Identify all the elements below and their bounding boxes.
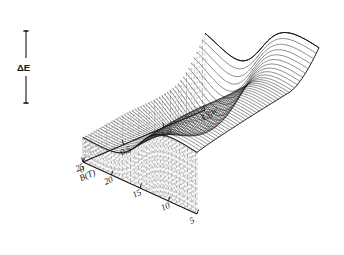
- figure-3d-surface-plot: ΔE 510152025 00.51.01.5 B(T) 1.5 W.: [0, 0, 344, 255]
- left-axis-tick-5: 5: [188, 215, 197, 226]
- delta-e-label: ΔE: [17, 62, 30, 73]
- plot-canvas: ΔE 510152025 00.51.01.5 B(T) 1.5 W.: [0, 0, 344, 255]
- delta-e-scale-bar: ΔE: [17, 30, 30, 104]
- surface-mesh: [83, 33, 319, 214]
- axis-lines: [82, 106, 206, 215]
